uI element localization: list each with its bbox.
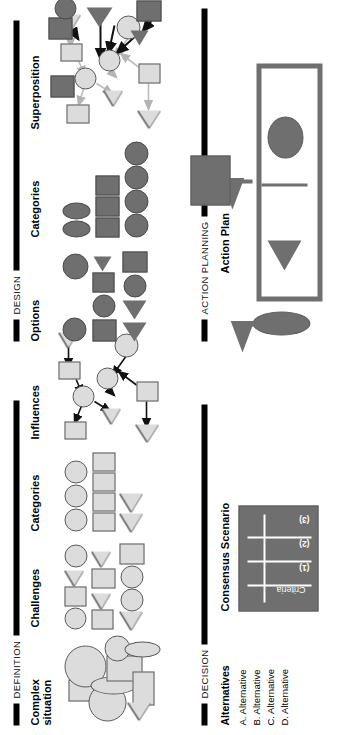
- section-definition: DEFINITION Complex situation Challenges …: [6, 377, 178, 727]
- design-category-circle: [124, 165, 148, 189]
- challenge-square: [119, 543, 144, 564]
- superposition-dark-triangle: [130, 30, 148, 45]
- category-circle: [64, 460, 87, 483]
- consensus-row-1: (1): [299, 562, 309, 572]
- design-category-square: [95, 175, 119, 195]
- design-category-ellipse: [62, 202, 90, 219]
- challenge-square: [64, 586, 86, 606]
- influence-node-square: [64, 421, 86, 439]
- options-shapes: [62, 249, 162, 341]
- superposition-dark-circle: [54, 0, 76, 19]
- challenge-circle: [64, 544, 87, 567]
- table-header-separator: [263, 514, 265, 602]
- design-category-circle: [124, 189, 148, 213]
- influence-node-circle: [72, 385, 94, 407]
- superposition-light-square: [138, 63, 160, 83]
- action-plan-result-square: [190, 155, 230, 205]
- action-plan-frame: [256, 63, 322, 301]
- challenge-square: [91, 568, 115, 588]
- consensus-scenario-table: Criteria (1) (2) (3): [238, 505, 318, 611]
- option-circle: [62, 253, 88, 279]
- superposition-light-circle: [74, 67, 96, 89]
- consensus-row-3: (3): [299, 514, 309, 524]
- challenge-triangle: [120, 611, 142, 629]
- categories-design-shapes: [62, 141, 162, 237]
- superposition-dark-square: [48, 17, 72, 39]
- option-circle: [123, 274, 146, 297]
- definition-section-label: DEFINITION: [10, 640, 21, 698]
- influence-node-circle: [96, 367, 118, 389]
- category-circle: [64, 484, 87, 507]
- design-category-square: [95, 217, 119, 237]
- section-rule: [13, 703, 19, 725]
- option-square: [122, 251, 147, 272]
- superposition-dark-triangle: [86, 7, 112, 27]
- category-square: [92, 492, 115, 511]
- superposition-light-triangle: [104, 90, 122, 105]
- alternative-item-c: C. Alternative: [264, 669, 275, 726]
- influence-node-triangle: [102, 408, 120, 423]
- panel-title-influences: Influences: [28, 385, 40, 439]
- design-section-head: DESIGN: [10, 20, 21, 341]
- alternative-item-a: A. Alternative: [236, 669, 247, 725]
- influence-node-triangle: [136, 424, 158, 441]
- panel-title-categories-definition: Categories: [28, 474, 40, 531]
- category-triangle: [120, 513, 142, 531]
- challenge-triangle: [65, 570, 83, 585]
- decision-section-head: DECISION: [198, 404, 209, 725]
- section-rule: [13, 400, 19, 635]
- option-square: [92, 319, 116, 341]
- panel-title-categories-design: Categories: [28, 180, 40, 237]
- action-plan-circle: [267, 116, 303, 158]
- challenges-shapes: [64, 541, 164, 629]
- consensus-column-header: Criteria: [276, 584, 305, 594]
- option-square: [92, 272, 114, 292]
- influences-network: [56, 329, 168, 441]
- section-decision: DECISION Alternatives A. Alternative B. …: [196, 377, 352, 727]
- decision-section-label: DECISION: [198, 649, 209, 698]
- panel-title-superposition: Superposition: [28, 55, 40, 129]
- cluster-ellipse: [124, 641, 160, 657]
- option-circle: [92, 294, 115, 317]
- alternative-item-b: B. Alternative: [250, 669, 261, 725]
- section-rule: [201, 404, 207, 644]
- design-section-label: DESIGN: [10, 275, 21, 314]
- influence-node-square: [136, 381, 158, 401]
- design-category-square: [95, 196, 119, 216]
- section-action-planning: ACTION PLANNING Action Plan: [196, 7, 352, 343]
- panel-title-complex-situation: Complex situation: [28, 679, 53, 725]
- section-rule: [13, 20, 19, 270]
- option-triangle: [93, 256, 111, 271]
- panel-title-options: Options: [28, 299, 40, 341]
- cluster-triangle: [128, 702, 150, 719]
- action-plan-triangle: [267, 240, 301, 270]
- category-square: [92, 512, 115, 531]
- influence-node-square: [58, 361, 80, 379]
- superposition-light-triangle: [138, 110, 160, 127]
- alternative-item-d: D. Alternative: [278, 669, 289, 726]
- challenge-circle: [120, 565, 143, 588]
- superposition-light-circle: [98, 49, 120, 71]
- superposition-dark-square: [136, 0, 161, 21]
- complex-situation-cluster: [62, 632, 170, 727]
- cluster-square: [132, 671, 154, 705]
- category-circle: [64, 508, 87, 531]
- action-plan-divider: [261, 183, 307, 186]
- category-square: [92, 452, 115, 471]
- option-triangle: [122, 300, 146, 319]
- section-rule: [201, 703, 207, 725]
- option-circle: [62, 317, 86, 341]
- section-design: DESIGN Options Categories Superposition: [6, 7, 178, 343]
- design-category-circle: [124, 213, 148, 237]
- section-rule: [13, 319, 19, 341]
- superposition-dark-square: [50, 75, 74, 97]
- panel-title-challenges: Challenges: [28, 568, 40, 627]
- panel-title-consensus-scenario: Consensus Scenario: [218, 502, 230, 611]
- panel-title-alternatives: Alternatives: [218, 665, 230, 725]
- design-category-circle: [124, 141, 148, 165]
- definition-section-head: DEFINITION: [10, 400, 21, 725]
- option-triangle: [122, 322, 146, 341]
- challenge-triangle: [92, 593, 110, 608]
- challenge-square: [91, 609, 113, 629]
- design-category-ellipse: [62, 220, 90, 237]
